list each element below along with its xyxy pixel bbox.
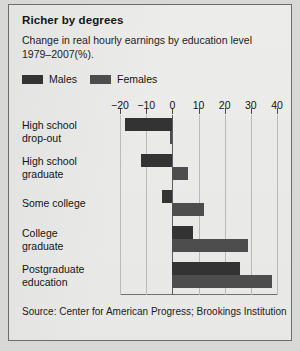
legend-item-males: Males <box>22 73 77 85</box>
bar-females-4 <box>172 275 271 288</box>
plot-area: −20−10010203040 <box>120 115 277 295</box>
bar-males-1 <box>141 154 172 167</box>
chart-title: Richer by degrees <box>22 14 123 26</box>
chart-subtitle: Change in real hourly earnings by educat… <box>22 33 277 61</box>
category-label-3: College graduate <box>22 227 114 252</box>
tick-label-10: 10 <box>193 99 205 111</box>
gridline-30 <box>251 115 252 295</box>
legend-swatch-males-icon <box>22 75 43 84</box>
category-label-0: High school drop-out <box>22 119 114 144</box>
tick-label--10: −10 <box>137 99 155 111</box>
tick-label-0: 0 <box>169 99 175 111</box>
chart-figure: Richer by degrees Change in real hourly … <box>8 4 292 341</box>
tick-label-30: 30 <box>245 99 257 111</box>
chart-legend: Males Females <box>22 73 157 85</box>
gridline--20 <box>120 115 121 295</box>
bar-males-0 <box>125 118 172 131</box>
bar-females-1 <box>172 167 188 180</box>
category-label-2: Some college <box>22 197 114 210</box>
gridline--10 <box>146 115 147 295</box>
legend-label-females: Females <box>117 73 157 85</box>
category-label-1: High school graduate <box>22 155 114 180</box>
chart-source: Source: Center for American Progress; Br… <box>22 305 287 319</box>
legend-swatch-females-icon <box>90 75 111 84</box>
tick-label-40: 40 <box>271 99 283 111</box>
bar-females-2 <box>172 203 203 216</box>
bar-males-3 <box>172 226 193 239</box>
gridline-40 <box>277 115 278 295</box>
bar-females-0 <box>170 131 173 144</box>
bar-males-2 <box>162 190 172 203</box>
legend-label-males: Males <box>49 73 77 85</box>
tick-label--20: −20 <box>111 99 129 111</box>
category-label-4: Postgraduate education <box>22 263 114 288</box>
bar-males-4 <box>172 262 240 275</box>
tick-label-20: 20 <box>219 99 231 111</box>
bar-females-3 <box>172 239 248 252</box>
legend-item-females: Females <box>90 73 157 85</box>
